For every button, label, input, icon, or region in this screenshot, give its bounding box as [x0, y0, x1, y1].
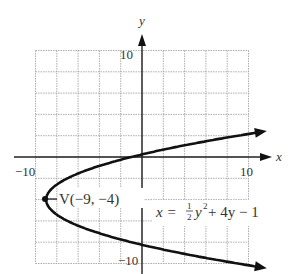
curve-arrow-top-icon [254, 128, 267, 138]
vertex-label: V(−9, −4) [59, 191, 119, 208]
x-max-tick-label: 10 [240, 164, 253, 179]
eq-exp: 2 [203, 201, 208, 211]
eq-lhs: x = [155, 204, 177, 220]
x-axis-arrow-icon [260, 153, 272, 161]
y-axis-label: y [137, 13, 145, 28]
y-max-tick-label: 10 [120, 47, 133, 62]
chart-canvas: y x 10 −10 10 −10 V(−9, −4) x = 1 2 y 2 … [0, 0, 302, 274]
eq-frac-num: 1 [187, 201, 192, 211]
y-axis-arrow-icon [138, 34, 146, 46]
x-axis-label: x [275, 149, 282, 164]
y-min-tick-label: −10 [118, 253, 138, 268]
eq-y: y [193, 204, 202, 220]
x-min-tick-label: −10 [15, 164, 35, 179]
curve-arrow-bottom-icon [254, 261, 267, 271]
eq-frac-den: 2 [187, 212, 192, 222]
eq-rest: + 4y − 1 [208, 204, 259, 220]
